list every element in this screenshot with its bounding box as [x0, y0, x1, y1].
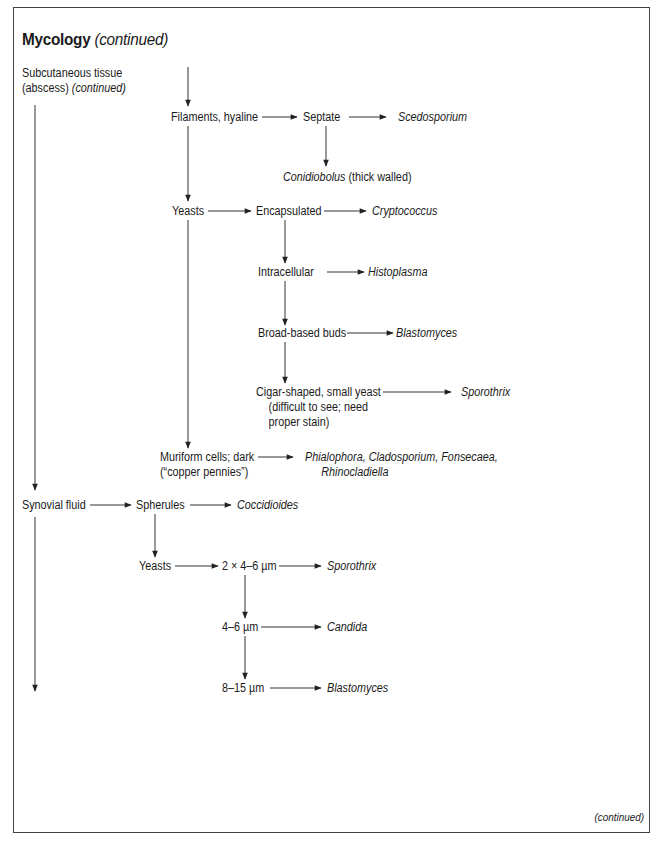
node-conidiobolus: Conidiobolus (thick walled) — [283, 170, 411, 185]
node-yeasts: Yeasts — [172, 204, 204, 219]
subcut-line2: (abscess) — [22, 81, 69, 95]
node-histoplasma: Histoplasma — [368, 265, 427, 280]
node-coccidioides: Coccidioides — [237, 498, 298, 513]
node-blastomyces-2: Blastomyces — [327, 681, 388, 696]
node-spherules: Spherules — [136, 498, 185, 513]
cigar-line2: (difficult to see; need — [256, 400, 368, 414]
muriform-line1: Muriform cells; dark — [160, 450, 254, 464]
conidiobolus-name: Conidiobolus — [283, 170, 345, 184]
node-cigar-shaped: Cigar-shaped, small yeast (difficult to … — [256, 385, 381, 430]
node-yeasts-synovial: Yeasts — [139, 559, 171, 574]
node-sporothrix-1: Sporothrix — [461, 385, 510, 400]
node-candida: Candida — [327, 620, 367, 635]
subcut-line1: Subcutaneous tissue — [22, 66, 122, 80]
conidiobolus-note: (thick walled) — [348, 170, 411, 184]
continued-footer: (continued) — [594, 811, 644, 823]
node-septate: Septate — [303, 110, 340, 125]
node-subcutaneous-tissue: Subcutaneous tissue (abscess) (continued… — [22, 66, 126, 96]
node-sporothrix-2: Sporothrix — [327, 559, 376, 574]
node-synovial-fluid: Synovial fluid — [22, 498, 86, 513]
node-cryptococcus: Cryptococcus — [372, 204, 437, 219]
node-size-4-6: 4–6 µm — [222, 620, 258, 635]
muriform-genera-line2: Rhinocladiella — [305, 465, 388, 479]
subcut-continued: (continued) — [72, 81, 126, 95]
node-muriform-genera: Phialophora, Cladosporium, Fonsecaea, Rh… — [305, 450, 498, 480]
node-size-8-15: 8–15 µm — [222, 681, 264, 696]
cigar-line3: proper stain) — [256, 415, 329, 429]
muriform-genera-line1: Phialophora, Cladosporium, Fonsecaea, — [305, 450, 498, 464]
node-encapsulated: Encapsulated — [256, 204, 321, 219]
node-size-2x4-6: 2 × 4–6 µm — [222, 559, 277, 574]
node-blastomyces-1: Blastomyces — [396, 326, 457, 341]
cigar-line1: Cigar-shaped, small yeast — [256, 385, 381, 399]
node-intracellular: Intracellular — [258, 265, 314, 280]
muriform-line2: (“copper pennies”) — [160, 465, 248, 479]
node-muriform-cells: Muriform cells; dark (“copper pennies”) — [160, 450, 254, 480]
node-broad-based-buds: Broad-based buds — [258, 326, 346, 341]
node-filaments-hyaline: Filaments, hyaline — [171, 110, 258, 125]
node-scedosporium: Scedosporium — [398, 110, 467, 125]
